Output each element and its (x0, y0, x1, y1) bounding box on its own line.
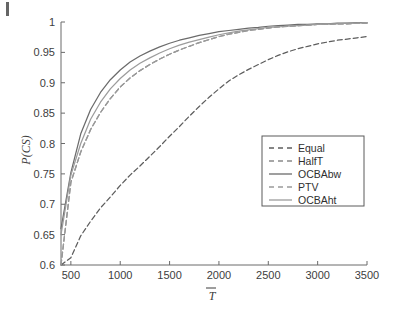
y-tick-label: 0.6 (40, 259, 55, 271)
x-tick-label: 1500 (157, 269, 181, 281)
chart-legend: EqualHalfTOCBAbwPTVOCBAht (262, 136, 364, 206)
pcs-vs-tbar-line-chart: 500100015002000250030003500 0.60.650.70.… (0, 0, 395, 317)
y-tick-label: 0.85 (34, 107, 55, 119)
legend-label-halft: HalfT (298, 155, 324, 167)
x-axis-ticks (71, 261, 367, 265)
x-tick-label: 500 (62, 269, 80, 281)
legend-label-equal: Equal (298, 142, 325, 154)
y-axis-title: P(CS) (19, 135, 33, 165)
y-tick-label: 0.8 (40, 138, 55, 150)
x-axis-tick-labels: 500100015002000250030003500 (62, 269, 380, 281)
x-axis-title: T (206, 288, 217, 303)
x-tick-label: 2000 (207, 269, 231, 281)
y-tick-label: 0.95 (34, 46, 55, 58)
legend-label-ocbabw: OCBAbw (298, 168, 342, 180)
y-tick-label: 0.9 (40, 77, 55, 89)
legend-label-ptv: PTV (298, 181, 318, 193)
svg-text:T: T (209, 289, 217, 303)
x-tick-label: 2500 (256, 269, 280, 281)
y-tick-label: 0.75 (34, 168, 55, 180)
figure-container: 500100015002000250030003500 0.60.650.70.… (0, 0, 395, 317)
svg-text:P(CS): P(CS) (19, 135, 33, 165)
y-tick-label: 0.65 (34, 229, 55, 241)
x-tick-label: 3500 (355, 269, 379, 281)
x-tick-label: 3000 (305, 269, 329, 281)
y-axis-tick-labels: 0.60.650.70.750.80.850.90.951 (34, 16, 55, 271)
x-tick-label: 1000 (108, 269, 132, 281)
page-edge-artifact (6, 2, 9, 16)
y-tick-label: 1 (49, 16, 55, 28)
legend-label-ocbaht: OCBAht (298, 194, 337, 206)
y-tick-label: 0.7 (40, 198, 55, 210)
